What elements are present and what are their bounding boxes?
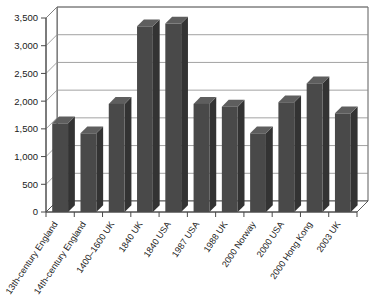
y-axis-tick-label: 2,500	[14, 68, 38, 79]
bar-front-face	[137, 26, 153, 212]
bar-group	[165, 17, 188, 212]
bar-front-face	[194, 104, 210, 212]
bar-group	[137, 19, 160, 212]
bar-side-face	[153, 19, 160, 212]
bar-group	[278, 95, 301, 212]
bar-side-face	[181, 17, 188, 212]
bar-group	[194, 97, 217, 212]
y-axis-tick-label: 0	[33, 206, 38, 217]
bar-side-face	[209, 97, 216, 212]
bar-group	[109, 97, 132, 212]
bar-group	[52, 116, 75, 212]
x-axis-category-label: 1987 USA	[170, 220, 201, 260]
y-axis-tick-label: 3,000	[14, 40, 38, 51]
bar-side-face	[125, 97, 132, 212]
x-axis-category-label: 1840 UK	[117, 220, 145, 255]
bar-group	[80, 126, 103, 212]
bar-group	[222, 100, 245, 212]
y-axis-tick-label: 1,000	[14, 151, 38, 162]
x-axis-category-label: 1840 USA	[142, 220, 173, 260]
bar-side-face	[351, 107, 358, 212]
bar-front-face	[335, 113, 351, 212]
y-axis-tick-label: 1,500	[14, 123, 38, 134]
bar-front-face	[80, 133, 96, 212]
x-axis-category-label: 13th-century England	[4, 220, 60, 297]
x-axis-category-label: 1988 UK	[202, 220, 230, 255]
bar-side-face	[96, 126, 103, 212]
y-axis-tick-label: 500	[22, 179, 38, 190]
x-axis-category-label: 14th-century England	[32, 220, 88, 297]
bar-side-face	[266, 126, 273, 212]
bar-front-face	[278, 102, 294, 212]
bar-chart: 05001,0001,5002,0002,5003,0003,50013th-c…	[0, 0, 392, 305]
bar-front-face	[165, 24, 181, 212]
bar-group	[307, 77, 330, 212]
x-axis-category-label: 2003 UK	[315, 220, 343, 255]
bar-side-face	[294, 95, 301, 212]
bar-group	[335, 107, 358, 212]
bar-front-face	[250, 133, 266, 212]
y-axis-tick-label: 3,500	[14, 12, 38, 23]
chart-canvas: 05001,0001,5002,0002,5003,0003,50013th-c…	[0, 0, 392, 305]
bar-front-face	[307, 83, 323, 212]
y-axis-tick-label: 2,000	[14, 96, 38, 107]
bar-front-face	[109, 104, 125, 212]
bar-side-face	[323, 77, 330, 212]
bar-front-face	[222, 107, 238, 212]
bar-side-face	[238, 100, 245, 212]
bar-group	[250, 126, 273, 212]
x-axis-category-label: 2000 USA	[255, 220, 286, 260]
bar-side-face	[68, 116, 75, 212]
bar-front-face	[52, 123, 68, 212]
